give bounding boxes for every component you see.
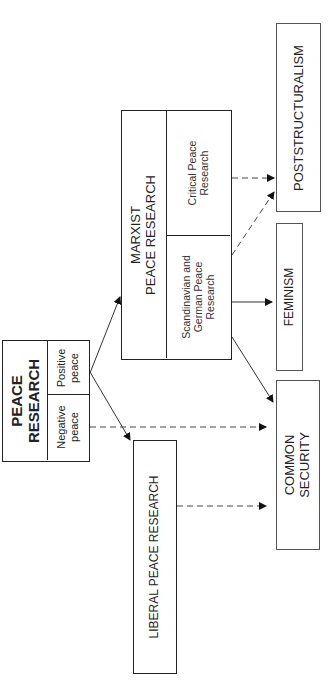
- cell-critical-peace-research: Critical Peace Research: [166, 111, 230, 236]
- node-liberal-peace-research: LIBERAL PEACE RESEARCH: [133, 440, 177, 674]
- marxist-title: MARXIST PEACE RESEARCH: [122, 111, 167, 358]
- cell-scandinavian-german-peace-research: Scandinavian and German Peace Research: [166, 235, 230, 358]
- node-peace-research: PEACE RESEARCH Positive peace Negative p…: [2, 340, 90, 462]
- node-poststructuralism: POSTSTRUCTURALISM: [276, 23, 321, 212]
- node-common-security: COMMON SECURITY: [276, 380, 320, 550]
- edge-positive-to-liberal: [90, 372, 130, 440]
- peace-research-title: PEACE RESEARCH: [3, 341, 48, 460]
- node-feminism: FEMINISM: [276, 223, 303, 371]
- edge-scandinavian-to-post: [232, 192, 274, 255]
- node-marxist-peace-research: MARXIST PEACE RESEARCH Critical Peace Re…: [121, 110, 232, 360]
- cell-positive-peace: Positive peace: [47, 341, 89, 395]
- edge-positive-to-marxist: [90, 297, 120, 373]
- cell-negative-peace: Negative peace: [47, 394, 89, 460]
- edge-scandinavian-to-common: [232, 337, 273, 402]
